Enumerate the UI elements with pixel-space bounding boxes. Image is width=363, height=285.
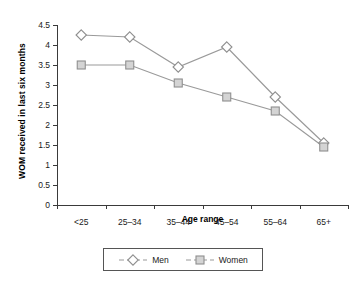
y-tick-label: 0.5 xyxy=(38,180,50,190)
plot-area: 00.511.522.533.544.5 <2525–3435–4445–545… xyxy=(57,25,348,205)
series-line-men xyxy=(81,35,324,143)
y-tick-label: 2.5 xyxy=(38,100,50,110)
y-axis-title: WOM received in last six months xyxy=(17,11,27,211)
data-point-marker-women xyxy=(320,143,328,151)
data-point-marker-women xyxy=(223,93,231,101)
data-point-marker-men xyxy=(76,30,86,40)
legend-marker xyxy=(196,256,204,264)
x-tick-mark xyxy=(348,205,349,209)
x-axis-title: Age range xyxy=(57,214,348,224)
legend-label: Women xyxy=(219,255,248,265)
data-point-marker-women xyxy=(77,61,85,69)
legend-swatch-filled-square-icon xyxy=(185,254,215,266)
legend-entry-women[interactable]: Women xyxy=(185,254,248,266)
legend-entry-men[interactable]: Men xyxy=(118,254,169,266)
chart-figure: WOM received in last six months 00.511.5… xyxy=(0,0,363,285)
data-point-marker-women xyxy=(271,107,279,115)
y-tick-label: 3.5 xyxy=(38,60,50,70)
y-tick-label: 4 xyxy=(45,40,50,50)
data-series-layer xyxy=(57,25,348,206)
legend-label: Men xyxy=(152,255,169,265)
y-tick-label: 1 xyxy=(45,160,50,170)
y-tick-label: 4.5 xyxy=(38,20,50,30)
data-point-marker-women xyxy=(126,61,134,69)
data-point-marker-women xyxy=(174,79,182,87)
y-tick-label: 1.5 xyxy=(38,140,50,150)
data-point-marker-men xyxy=(173,62,183,72)
series-line-women xyxy=(81,65,324,147)
chart-legend: MenWomen xyxy=(103,248,263,271)
y-tick-label: 2 xyxy=(45,120,50,130)
y-tick-label: 0 xyxy=(45,200,50,210)
data-point-marker-men xyxy=(125,32,135,42)
legend-marker xyxy=(128,254,138,264)
legend-swatch-open-diamond-icon xyxy=(118,254,148,266)
y-tick-label: 3 xyxy=(45,80,50,90)
